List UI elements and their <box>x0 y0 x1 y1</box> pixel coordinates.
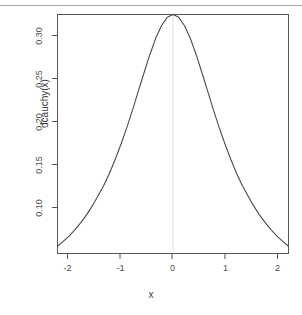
y-tick-label-4: 0.30 <box>34 16 44 56</box>
x-tick-label-3: 1 <box>205 263 246 273</box>
y-tick-label-1: 0.15 <box>34 145 44 185</box>
x-tick-label-2: 0 <box>152 263 193 273</box>
y-axis-title: dcauchy(x) <box>39 64 50 144</box>
cauchy-density-plot-figure: 0.10 0.15 0.20 0.25 0.30 -2 -1 0 1 2 x d… <box>0 0 302 315</box>
x-tick-label-1: -1 <box>100 263 141 273</box>
x-tick-label-0: -2 <box>47 263 88 273</box>
x-axis-title: x <box>0 289 302 300</box>
x-tick-label-4: 2 <box>257 263 298 273</box>
x-axis-ticks-group <box>68 254 278 260</box>
y-axis-ticks-group <box>52 36 58 208</box>
y-tick-label-0: 0.10 <box>34 188 44 228</box>
